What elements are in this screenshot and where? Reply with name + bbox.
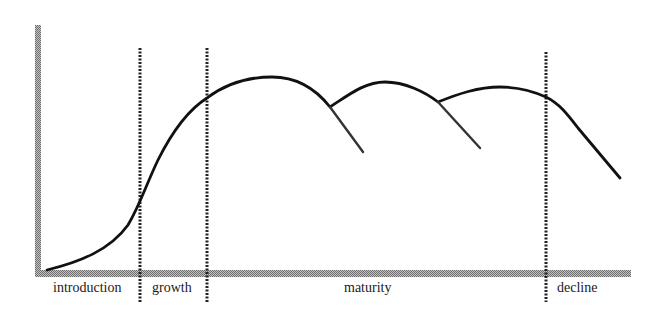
- abandoned-branch-2: [438, 102, 480, 148]
- abandoned-branch-1: [330, 107, 363, 152]
- x-axis: [35, 270, 631, 277]
- stage-label-introduction: introduction: [53, 279, 121, 297]
- diagram-svg: [0, 0, 662, 318]
- stage-label-decline: decline: [557, 279, 597, 297]
- y-axis: [35, 25, 41, 277]
- product-life-cycle-diagram: introduction growth maturity decline: [0, 0, 662, 318]
- stage-label-growth: growth: [152, 279, 192, 297]
- stage-label-maturity: maturity: [344, 279, 391, 297]
- main-sales-curve: [47, 77, 620, 270]
